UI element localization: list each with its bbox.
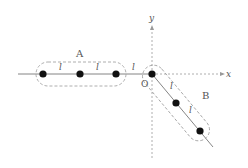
spacing-label-a2: l (96, 62, 99, 72)
y-axis-arrow-icon (150, 25, 154, 30)
particle-a-3 (112, 70, 119, 77)
spacing-label-a1: l (59, 62, 62, 72)
particle-b-2 (172, 99, 179, 106)
particle-a-2 (76, 70, 83, 77)
group-b-label: B (202, 90, 209, 101)
spacing-label-gap: l (132, 62, 135, 72)
diagram-svg: A B l l l l l O x y (0, 0, 248, 168)
y-axis-label: y (148, 13, 155, 23)
b-chain-line (152, 74, 213, 147)
diagram-canvas: A B l l l l l O x y (0, 0, 248, 168)
spacing-label-b1: l (170, 81, 173, 91)
x-axis-arrow-icon (220, 72, 225, 76)
particle-origin (148, 70, 155, 77)
spacing-label-b2: l (189, 105, 192, 115)
x-axis-label: x (226, 69, 231, 79)
particle-a-1 (39, 70, 46, 77)
group-a-label: A (75, 48, 84, 59)
origin-label: O (141, 79, 148, 89)
particle-b-3 (196, 127, 203, 134)
